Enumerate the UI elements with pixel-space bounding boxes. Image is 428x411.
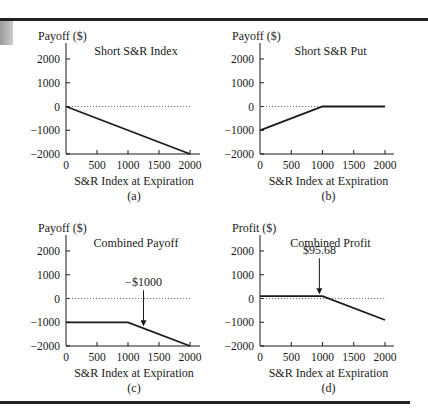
y-axis-label: Payoff ($) xyxy=(38,29,87,43)
x-tick-label: 1500 xyxy=(342,351,365,363)
x-tick-label: 1500 xyxy=(342,159,365,171)
figure-canvas: 200010000−1000−20000500100015002000Payof… xyxy=(0,0,428,411)
y-axis-label: Payoff ($) xyxy=(232,29,281,43)
y-tick-label: −1000 xyxy=(31,316,61,328)
x-tick-label: 1500 xyxy=(148,351,171,363)
y-axis-label: Payoff ($) xyxy=(38,221,87,235)
x-tick-label: 0 xyxy=(63,351,69,363)
data-series-line xyxy=(66,107,190,155)
y-tick-label: 1000 xyxy=(231,77,254,89)
x-tick-label: 500 xyxy=(88,351,106,363)
y-tick-label: 0 xyxy=(54,101,60,113)
x-axis-label: S&R Index at Expiration xyxy=(74,366,194,380)
x-axis-label: S&R Index at Expiration xyxy=(269,174,389,188)
x-axis-label: S&R Index at Expiration xyxy=(74,174,194,188)
y-tick-label: 2000 xyxy=(37,53,60,65)
y-tick-label: 1000 xyxy=(37,269,60,281)
data-series-line xyxy=(260,107,385,131)
y-tick-label: 1000 xyxy=(37,77,60,89)
y-tick-label: −1000 xyxy=(225,124,255,136)
x-tick-label: 2000 xyxy=(179,159,202,171)
y-tick-label: −2000 xyxy=(31,340,61,352)
y-tick-label: 1000 xyxy=(231,269,254,281)
y-tick-label: −2000 xyxy=(31,148,61,160)
x-axis-label: S&R Index at Expiration xyxy=(269,366,389,380)
y-tick-label: 0 xyxy=(248,293,254,305)
x-tick-label: 0 xyxy=(257,159,263,171)
annotation-label: $95.68 xyxy=(303,243,336,257)
x-tick-label: 1000 xyxy=(117,351,140,363)
chart-title: Combined Payoff xyxy=(94,236,179,250)
chart-panel-b: 200010000−1000−20000500100015002000Payof… xyxy=(225,29,397,203)
x-tick-label: 0 xyxy=(257,351,263,363)
y-tick-label: −1000 xyxy=(31,124,61,136)
chart-title: Short S&R Put xyxy=(294,44,367,58)
panel-label: (d) xyxy=(322,381,336,395)
x-tick-label: 0 xyxy=(63,159,69,171)
x-tick-label: 2000 xyxy=(374,351,397,363)
y-tick-label: −1000 xyxy=(225,316,255,328)
x-tick-label: 500 xyxy=(283,159,301,171)
x-tick-label: 500 xyxy=(88,159,106,171)
y-tick-label: 0 xyxy=(54,293,60,305)
panel-label: (c) xyxy=(127,381,140,395)
y-tick-label: 0 xyxy=(248,101,254,113)
x-tick-label: 1500 xyxy=(148,159,171,171)
y-tick-label: 2000 xyxy=(231,53,254,65)
chart-panel-c: 200010000−1000−20000500100015002000Payof… xyxy=(31,221,202,395)
panel-label: (a) xyxy=(127,189,140,203)
y-tick-label: −2000 xyxy=(225,340,255,352)
data-series-line xyxy=(260,296,385,320)
x-tick-label: 1000 xyxy=(117,159,140,171)
y-tick-label: 2000 xyxy=(37,245,60,257)
x-tick-label: 1000 xyxy=(311,351,334,363)
y-tick-label: 2000 xyxy=(231,245,254,257)
panel-label: (b) xyxy=(322,189,336,203)
x-tick-label: 1000 xyxy=(311,159,334,171)
y-axis-label: Profit ($) xyxy=(232,221,276,235)
chart-panel-d: 200010000−1000−20000500100015002000Profi… xyxy=(225,221,397,395)
x-tick-label: 500 xyxy=(283,351,301,363)
x-tick-label: 2000 xyxy=(179,351,202,363)
chart-panel-a: 200010000−1000−20000500100015002000Payof… xyxy=(31,29,202,203)
x-tick-label: 2000 xyxy=(374,159,397,171)
annotation-label: −$1000 xyxy=(125,275,162,289)
y-tick-label: −2000 xyxy=(225,148,255,160)
chart-title: Short S&R Index xyxy=(94,44,177,58)
